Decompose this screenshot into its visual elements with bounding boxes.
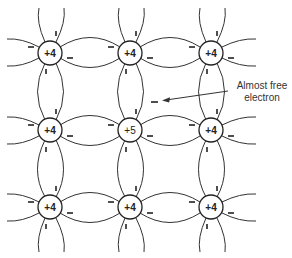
svg-text:+4: +4 — [124, 202, 136, 213]
annotation-line1: Almost free — [237, 80, 288, 91]
svg-text:+5: +5 — [124, 125, 136, 136]
atom-r0-c0: +4 — [38, 41, 62, 65]
atom-r2-c1: +4 — [118, 195, 142, 219]
atom-r0-c1: +4 — [118, 41, 142, 65]
atoms: +4 +4 +4 +4 +5 +4 +4 +4 +4 — [38, 41, 223, 219]
atom-r0-c2: +4 — [199, 41, 223, 65]
silicon-lattice-diagram: +4 +4 +4 +4 +5 +4 +4 +4 +4 Almost free e… — [0, 0, 292, 258]
annotation-line2: electron — [244, 92, 280, 103]
svg-text:+4: +4 — [205, 48, 217, 59]
atom-r1-c1-donor: +5 — [118, 118, 142, 142]
arrow-head-icon — [162, 97, 170, 102]
svg-text:+4: +4 — [44, 202, 56, 213]
svg-text:+4: +4 — [124, 48, 136, 59]
atom-r1-c0: +4 — [38, 118, 62, 142]
svg-text:+4: +4 — [205, 202, 217, 213]
annotation-arrow — [166, 91, 228, 100]
atom-r2-c2: +4 — [199, 195, 223, 219]
free-electron-annotation: Almost free electron — [151, 80, 288, 103]
atom-r1-c2: +4 — [199, 118, 223, 142]
svg-text:+4: +4 — [44, 48, 56, 59]
svg-text:+4: +4 — [44, 125, 56, 136]
atom-r2-c0: +4 — [38, 195, 62, 219]
svg-text:+4: +4 — [205, 125, 217, 136]
